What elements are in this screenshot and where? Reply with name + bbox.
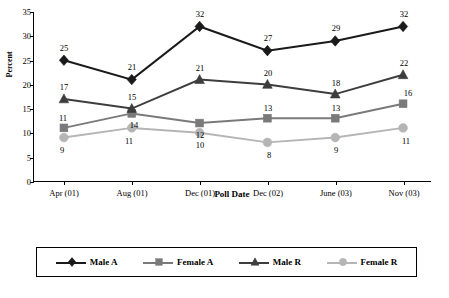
y-tick-mark	[30, 158, 34, 159]
data-point-label: 12	[196, 131, 205, 139]
y-tick-mark	[30, 133, 34, 134]
data-point-label: 20	[264, 69, 273, 77]
data-point-label: 22	[400, 59, 409, 67]
legend-marker	[154, 257, 164, 267]
legend-label: Male A	[90, 257, 118, 267]
series-line	[64, 104, 403, 128]
y-tick-mark	[30, 12, 34, 13]
data-point-label: 14	[130, 121, 139, 129]
data-point-label: 9	[334, 146, 338, 154]
chart-legend: Male AFemale AMale RFemale R	[36, 247, 417, 277]
data-point-label: 18	[332, 79, 341, 87]
data-point-label: 16	[404, 89, 413, 97]
series-line	[64, 75, 403, 109]
data-point-label: 10	[196, 141, 205, 149]
data-point-marker	[59, 94, 69, 103]
x-tick-mark	[336, 181, 337, 185]
data-point-marker	[398, 21, 407, 32]
data-point-marker	[264, 114, 272, 122]
data-point-marker	[60, 133, 69, 142]
data-point-marker	[399, 124, 408, 133]
data-point-label: 21	[128, 63, 137, 71]
legend-swatch	[143, 257, 173, 267]
data-point-marker	[399, 100, 407, 108]
data-point-label: 15	[128, 93, 137, 101]
legend-swatch	[239, 257, 269, 267]
data-point-label: 21	[196, 64, 205, 72]
data-point-marker	[331, 36, 340, 47]
y-tick-mark	[30, 36, 34, 37]
data-point-label: 8	[267, 151, 271, 159]
x-tick-mark	[64, 181, 65, 185]
legend-label: Male R	[273, 257, 301, 267]
data-point-label: 11	[125, 137, 133, 145]
data-point-label: 13	[332, 104, 341, 112]
legend-marker	[338, 257, 348, 267]
data-point-label: 27	[264, 34, 273, 42]
legend-swatch	[327, 257, 357, 267]
data-point-marker	[60, 124, 68, 132]
data-point-marker	[196, 119, 204, 127]
axis-box: 05101520253035Apr (01)Aug (01)Dec (01)De…	[33, 12, 431, 182]
legend-item-male-a: Male A	[56, 257, 118, 267]
x-tick-mark	[200, 181, 201, 185]
plot-area: Percent 05101520253035Apr (01)Aug (01)De…	[0, 4, 449, 209]
x-tick-mark	[268, 181, 269, 185]
series-lines	[34, 12, 431, 181]
y-tick-mark	[30, 109, 34, 110]
data-point-label: 25	[60, 44, 69, 52]
data-point-label: 32	[196, 10, 205, 18]
legend-swatch	[56, 257, 86, 267]
legend-marker	[250, 257, 260, 267]
data-point-label: 13	[264, 104, 273, 112]
y-axis-title: Percent	[5, 64, 14, 78]
data-point-marker	[263, 45, 272, 56]
data-point-label: 29	[332, 24, 341, 32]
series-line	[64, 26, 403, 79]
data-point-label: 32	[400, 10, 409, 18]
legend-label: Female R	[361, 257, 398, 267]
y-tick-mark	[30, 182, 34, 183]
data-point-marker	[331, 133, 340, 142]
legend-marker	[67, 257, 77, 267]
data-point-marker	[263, 138, 272, 147]
data-point-marker	[331, 114, 339, 122]
x-tick-mark	[404, 181, 405, 185]
legend-item-female-r: Female R	[327, 257, 398, 267]
series-line	[64, 128, 403, 142]
data-point-label: 11	[402, 137, 410, 145]
data-point-label: 9	[60, 146, 64, 154]
legend-label: Female A	[177, 257, 213, 267]
data-point-marker	[59, 55, 68, 66]
y-tick-mark	[30, 85, 34, 86]
data-point-label: 17	[60, 83, 69, 91]
y-tick-mark	[30, 61, 34, 62]
x-tick-mark	[132, 181, 133, 185]
x-axis-title: Poll Date	[33, 189, 431, 199]
line-chart: Percent 05101520253035Apr (01)Aug (01)De…	[0, 0, 449, 298]
data-point-marker	[398, 70, 408, 79]
legend-item-male-r: Male R	[239, 257, 301, 267]
legend-item-female-a: Female A	[143, 257, 213, 267]
data-point-label: 11	[59, 114, 67, 122]
